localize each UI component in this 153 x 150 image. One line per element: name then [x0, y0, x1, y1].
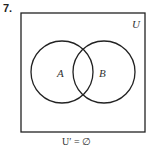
caption: U′ = ∅ [0, 136, 153, 147]
venn-diagram: U A B [0, 0, 153, 150]
set-b-label: B [99, 67, 106, 79]
universal-label: U [132, 18, 141, 30]
universal-set-box [21, 13, 145, 132]
set-a-label: A [56, 67, 64, 79]
